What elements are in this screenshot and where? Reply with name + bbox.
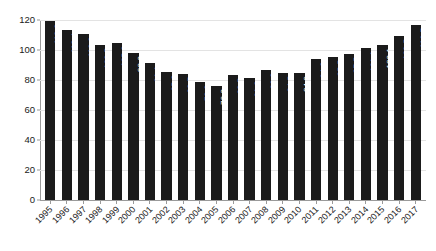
bar[interactable]: 103.5 [95,45,105,200]
bar-value-text: 95.5 [337,60,338,76]
bar-value-text: 98.3 [137,56,138,72]
bar[interactable]: 113.4 [62,30,72,200]
bar[interactable]: 81.2 [244,78,254,200]
bar[interactable]: 98.3 [128,53,138,200]
bar-value-label: 84.9 [299,73,304,84]
bar[interactable]: 103.1 [377,45,387,200]
bar-slot: 119.3 [42,20,59,200]
bar-value-label: 95.5 [333,57,338,68]
bar-value-label: 101.1 [366,48,371,61]
bar-value-text: 103.5 [104,48,105,69]
bar-value-text: 113.4 [71,33,72,53]
bar-value-label: 116.7 [416,25,421,38]
bar-value-text: 110.8 [88,37,89,57]
bar-slot: 94.3 [308,20,325,200]
bar-value-label: 119.3 [50,21,55,34]
bar-value-text: 109.5 [403,39,404,60]
bar[interactable]: 119.3 [45,21,55,200]
bar-value-text: 91.1 [154,66,155,82]
bar-value-text: 105.0 [121,46,122,67]
bar-value-text: 86.8 [270,73,271,89]
bar-slot: 97.5 [341,20,358,200]
bar-value-label: 103.5 [100,45,105,58]
bar-value-text: 97.5 [353,57,354,73]
bar-value-label: 103.1 [382,45,387,58]
bar-value-text: 101.1 [370,51,371,72]
bar-value-text: 94.3 [320,62,321,78]
bar[interactable]: 105.0 [112,43,122,201]
bar-value-text: 116.7 [420,28,421,48]
bar-value-text: 103.1 [386,48,387,69]
bar-slot: 98.3 [125,20,142,200]
bar-value-text: 83.5 [237,78,238,94]
bar-value-text: 78.8 [204,85,205,101]
bar-value-label: 85.2 [167,72,172,83]
bar[interactable]: 84.9 [294,73,304,200]
bar[interactable]: 83.5 [228,75,238,200]
bar[interactable]: 94.3 [311,59,321,200]
bar-value-text: 84.9 [303,76,304,92]
bar-slot: 78.8 [191,20,208,200]
bar-value-text: 119.3 [54,24,55,44]
bar-value-text: 84.5 [287,76,288,92]
x-label-slot: 2017 [407,205,424,249]
bar-slot: 86.8 [258,20,275,200]
bar-value-label: 83.5 [233,75,238,86]
bar[interactable]: 78.8 [195,82,205,200]
y-tick-label: 120 [19,15,40,25]
y-tick-label: 0 [30,195,40,205]
bar[interactable]: 83.7 [178,74,188,200]
bar[interactable]: 91.1 [145,63,155,200]
bar-value-label: 78.8 [200,82,205,93]
bar[interactable]: 84.5 [278,73,288,200]
bar-slot: 109.5 [391,20,408,200]
bar-slot: 91.1 [142,20,159,200]
bar-value-text: 85.2 [171,75,172,91]
plot-area: 020406080100120 119.3113.4110.8103.5105.… [40,20,426,200]
bar-value-label: 110.8 [84,34,89,47]
bar-value-text: 81.2 [254,81,255,97]
bar[interactable]: 76.3 [211,86,221,200]
bar-value-label: 109.5 [399,36,404,49]
y-tick-label: 40 [24,135,40,145]
bar-slot: 113.4 [59,20,76,200]
bar-slot: 84.5 [275,20,292,200]
bar-series: 119.3113.4110.8103.5105.098.391.185.283.… [40,20,426,200]
bar-slot: 81.2 [241,20,258,200]
bar-slot: 85.2 [158,20,175,200]
bar[interactable]: 101.1 [361,48,371,200]
bar-value-label: 113.4 [67,30,72,43]
y-tick-label: 20 [24,165,40,175]
bar-slot: 105.0 [108,20,125,200]
y-tick-label: 100 [19,45,40,55]
bar[interactable]: 109.5 [394,36,404,200]
bar-value-label: 97.5 [349,54,354,65]
bar-value-label: 98.3 [133,53,138,64]
bar[interactable]: 116.7 [411,25,421,200]
bar-slot: 110.8 [75,20,92,200]
bar-value-label: 76.3 [216,86,221,97]
bar-value-label: 83.7 [183,74,188,85]
bar-slot: 103.5 [92,20,109,200]
bar[interactable]: 110.8 [78,34,88,200]
bar-value-label: 81.2 [250,78,255,89]
bar-value-label: 84.5 [283,73,288,84]
bar[interactable]: 85.2 [161,72,171,200]
bar[interactable]: 95.5 [328,57,338,200]
bar-value-label: 105.0 [117,43,122,56]
bar[interactable]: 86.8 [261,70,271,200]
bar-value-text: 76.3 [220,89,221,105]
bar-value-label: 86.8 [266,70,271,81]
y-tick-label: 80 [24,75,40,85]
bar-slot: 101.1 [358,20,375,200]
bar-slot: 83.5 [225,20,242,200]
bar-value-label: 94.3 [316,59,321,70]
bar-slot: 95.5 [324,20,341,200]
bar-value-label: 91.1 [150,63,155,74]
bar-slot: 76.3 [208,20,225,200]
bar-value-text: 83.7 [187,77,188,93]
bar-slot: 103.1 [374,20,391,200]
bar-slot: 116.7 [407,20,424,200]
bar[interactable]: 97.5 [344,54,354,200]
bar-slot: 83.7 [175,20,192,200]
